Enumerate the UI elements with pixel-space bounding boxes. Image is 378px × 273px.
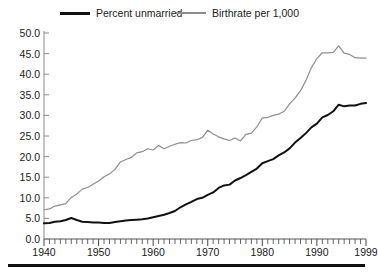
- chart-legend: Percent unmarried Birthrate per 1,000: [0, 4, 373, 22]
- legend-entry-birthrate: Birthrate per 1,000: [176, 4, 299, 22]
- plot-svg: [0, 24, 373, 246]
- y-axis-tick-labels: 50.045.040.035.030.025.020.015.010.05.00…: [0, 24, 40, 246]
- x-axis-tick-label: 1950: [87, 247, 110, 258]
- y-axis-tick-label: 50.0: [2, 28, 40, 38]
- series-line: [44, 46, 366, 210]
- legend-label-percent-unmarried: Percent unmarried: [96, 7, 182, 19]
- x-axis-tick-label: 1940: [32, 247, 55, 258]
- x-axis-tick-label: 1980: [251, 247, 274, 258]
- x-axis-tick-label: 1999: [354, 247, 377, 258]
- y-axis-tick-label: 15.0: [2, 172, 40, 182]
- y-axis-tick-label: 20.0: [2, 152, 40, 162]
- legend-label-birthrate: Birthrate per 1,000: [212, 7, 299, 19]
- x-axis-tick-label: 1970: [196, 247, 219, 258]
- legend-entry-percent-unmarried: Percent unmarried: [60, 4, 182, 22]
- axis-lines: [44, 31, 366, 239]
- plot-area: 50.045.040.035.030.025.020.015.010.05.00…: [0, 24, 373, 246]
- y-axis-tick-label: 25.0: [2, 131, 40, 141]
- y-axis-tick-label: 30.0: [2, 110, 40, 120]
- x-axis-tick-label: 1990: [305, 247, 328, 258]
- y-axis-tick-label: 35.0: [2, 90, 40, 100]
- y-axis-ticks: [44, 33, 49, 239]
- x-axis-tick-labels: 1940195019601970198019901999: [0, 247, 373, 261]
- x-axis-tick-label: 1960: [141, 247, 164, 258]
- data-series-group: [44, 46, 366, 224]
- legend-line-swatch-black: [60, 12, 90, 15]
- x-axis-ticks: [44, 239, 366, 246]
- y-axis-tick-label: 0.0: [2, 234, 40, 244]
- y-axis-tick-label: 10.0: [2, 193, 40, 203]
- y-axis-tick-label: 5.0: [2, 213, 40, 223]
- legend-line-swatch-gray: [176, 12, 206, 14]
- series-line: [44, 103, 366, 223]
- y-axis-tick-label: 45.0: [2, 49, 40, 59]
- y-axis-tick-label: 40.0: [2, 69, 40, 79]
- bottom-divider-rule: [8, 264, 365, 267]
